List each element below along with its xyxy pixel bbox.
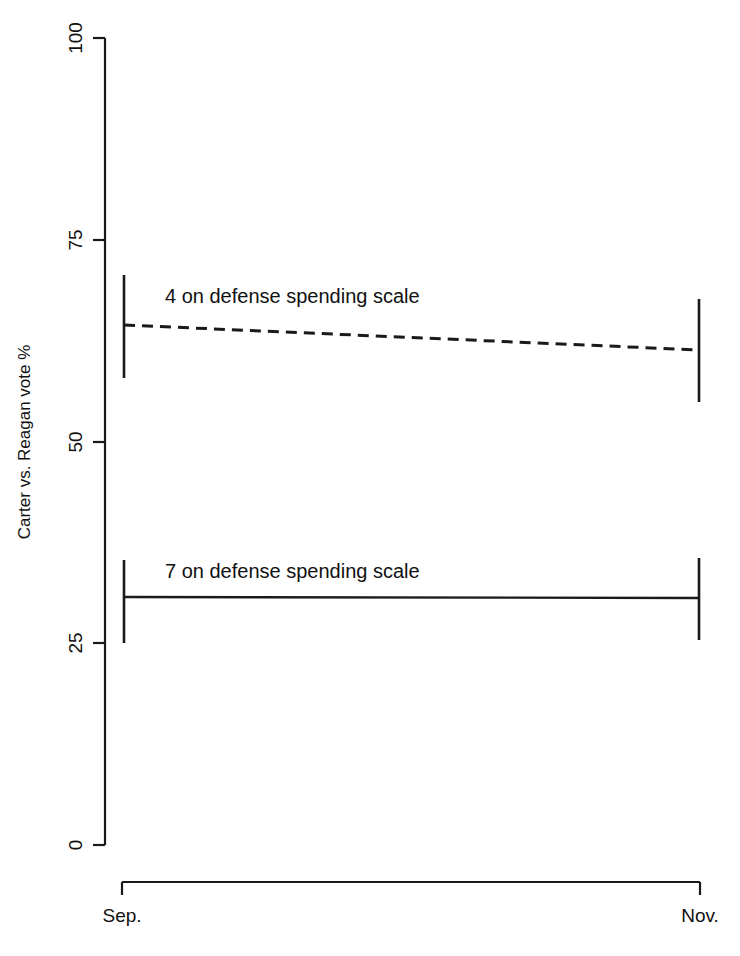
y-tick-label-25: 25 [65,632,86,653]
series2-solid-line [124,597,699,598]
y-tick-label-0: 0 [65,840,86,851]
y-axis-title: Carter vs. Reagan vote % [15,345,34,540]
series2-annotation-label: 7 on defense spending scale [165,560,420,582]
x-tick-label-sep: Sep. [102,905,141,926]
y-tick-label-50: 50 [65,431,86,452]
y-tick-label-100: 100 [65,22,86,54]
chart-figure: 100 75 50 25 0 Carter vs. Reagan vote % … [0,0,740,956]
x-tick-label-nov: Nov. [681,905,719,926]
chart-canvas: 100 75 50 25 0 Carter vs. Reagan vote % … [0,0,740,956]
y-tick-label-75: 75 [65,229,86,250]
chart-background [0,0,740,956]
series1-annotation-label: 4 on defense spending scale [165,285,420,307]
